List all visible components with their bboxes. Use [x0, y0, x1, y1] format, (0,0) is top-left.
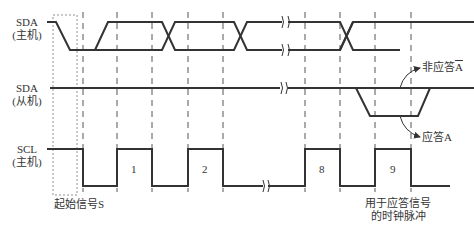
ack-arrow	[400, 116, 420, 137]
sda-slave-waveform	[50, 88, 474, 116]
pulse-number: 8	[319, 163, 325, 175]
signal-role: (主机)	[8, 29, 46, 42]
ack-clock-line1: 用于应答信号	[358, 197, 438, 210]
ack-clock-line2: 的时钟脉冲	[358, 210, 438, 223]
signal-name: SDA	[8, 82, 46, 95]
pulse-number: 1	[131, 163, 137, 175]
pulse-number: 2	[202, 163, 208, 175]
sda-slave-label: SDA (从机)	[8, 82, 46, 108]
ack-label: 应答A	[422, 131, 452, 144]
sda-master-waveform	[47, 22, 474, 50]
pulse-number: 9	[390, 163, 396, 175]
nack-arrow	[400, 68, 420, 88]
sda-master-label: SDA (主机)	[8, 16, 46, 42]
signal-role: (主机)	[8, 156, 46, 169]
nack-label: 非应答A	[422, 61, 463, 74]
break-icon	[281, 82, 288, 94]
scl-master-label: SCL (主机)	[8, 143, 46, 169]
nack-text: 非应答	[422, 61, 455, 73]
start-signal-label: 起始信号S	[44, 198, 114, 211]
signal-name: SCL	[8, 143, 46, 156]
signal-name: SDA	[8, 16, 46, 29]
ack-clock-label: 用于应答信号 的时钟脉冲	[358, 197, 438, 223]
signal-role: (从机)	[8, 95, 46, 108]
nack-symbol: A	[455, 61, 463, 73]
